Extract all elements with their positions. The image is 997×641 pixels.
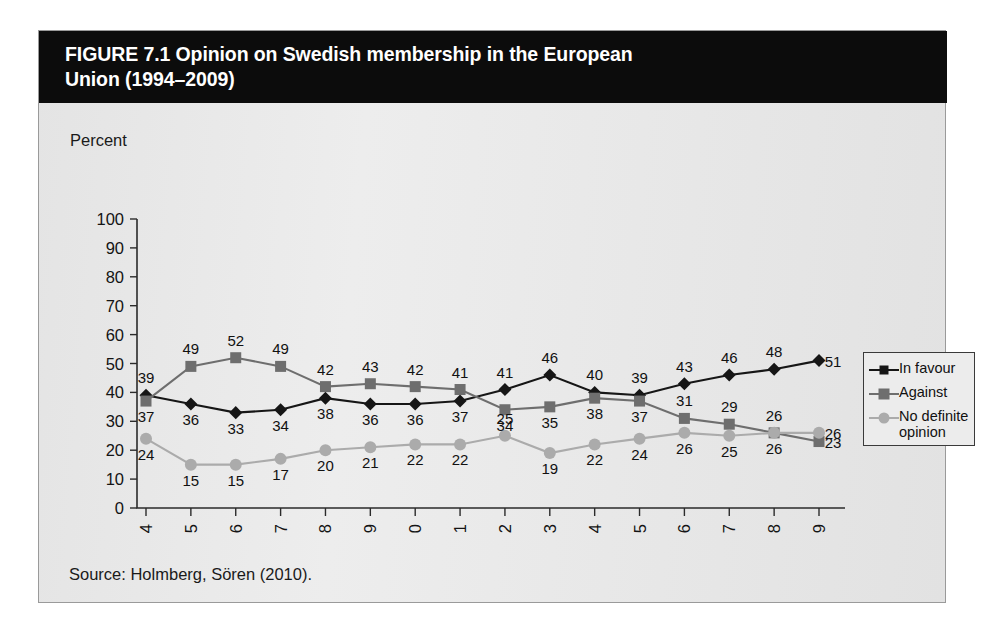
data-label: 37	[138, 408, 155, 425]
x-tick-label: 1997	[272, 524, 290, 533]
data-label: 49	[272, 340, 289, 357]
x-tick-label: 2000	[406, 524, 424, 533]
data-point-marker	[365, 378, 376, 389]
legend-item-in-favour[interactable]: In favour	[864, 361, 974, 378]
data-point-marker	[184, 397, 197, 410]
data-point-marker	[140, 433, 152, 445]
series-line-in-favour	[146, 361, 819, 413]
data-point-marker	[185, 361, 196, 372]
data-labels-group: 3936333438363637414640394346485137495249…	[138, 332, 842, 489]
data-label: 49	[183, 340, 200, 357]
legend-label: No definite opinion	[899, 409, 968, 440]
data-label: 19	[541, 460, 558, 477]
x-tick-label: 2001	[451, 524, 469, 533]
data-point-marker	[812, 354, 825, 367]
figure-title: FIGURE 7.1 Opinion on Swedish membership…	[65, 42, 921, 92]
data-label: 35	[541, 414, 558, 431]
data-point-marker	[319, 392, 332, 405]
data-point-marker	[723, 369, 736, 382]
y-tick-label: 90	[106, 239, 124, 257]
legend-label: Against	[899, 385, 947, 401]
chart-legend: In favour Against No definite opinion	[863, 352, 975, 446]
x-tick-label: 1995	[182, 524, 200, 533]
line-chart-plot: 0102030405060708090100 19941995199619971…	[39, 103, 947, 533]
data-label: 46	[721, 349, 738, 366]
y-tick-label: 60	[106, 326, 124, 344]
data-label: 41	[452, 364, 469, 381]
data-label: 29	[721, 398, 738, 415]
data-point-marker	[410, 381, 421, 392]
data-point-marker	[454, 395, 467, 408]
data-point-marker	[724, 419, 735, 430]
x-tick-label: 1998	[316, 524, 334, 533]
data-point-marker	[634, 433, 646, 445]
data-label: 22	[452, 451, 469, 468]
data-point-marker	[230, 352, 241, 363]
data-point-marker	[678, 377, 691, 390]
data-label: 38	[586, 405, 603, 422]
y-tick-label: 0	[115, 499, 124, 517]
data-label: 25	[497, 410, 514, 427]
data-point-marker	[679, 413, 690, 424]
y-tick-label: 10	[106, 470, 124, 488]
data-label: 43	[362, 358, 379, 375]
x-tick-label: 2005	[631, 524, 649, 533]
y-axis-ticks: 0102030405060708090100	[96, 210, 137, 517]
data-label: 25	[721, 443, 738, 460]
y-tick-label: 30	[106, 412, 124, 430]
y-tick-label: 50	[106, 355, 124, 373]
legend-marker-square-icon	[869, 386, 899, 402]
data-point-marker	[320, 381, 331, 392]
legend-label: In favour	[899, 361, 955, 377]
data-point-marker	[141, 396, 152, 407]
data-label: 36	[362, 411, 379, 428]
x-tick-label: 1999	[361, 524, 379, 533]
data-point-marker	[274, 403, 287, 416]
data-label: 24	[138, 446, 155, 463]
data-label: 42	[407, 361, 424, 378]
legend-marker-circle-icon	[869, 410, 899, 426]
legend-item-no-definite-opinion[interactable]: No definite opinion	[864, 409, 974, 440]
data-label: 36	[407, 411, 424, 428]
data-point-marker	[229, 406, 242, 419]
data-label: 26	[825, 425, 842, 442]
data-point-marker	[813, 427, 825, 439]
data-label: 41	[497, 364, 514, 381]
data-label: 15	[227, 472, 244, 489]
data-point-marker	[768, 427, 780, 439]
legend-item-against[interactable]: Against	[864, 385, 974, 402]
data-point-marker	[544, 447, 556, 459]
data-point-marker	[319, 444, 331, 456]
series-line-against	[146, 358, 819, 442]
figure-title-bar: FIGURE 7.1 Opinion on Swedish membership…	[39, 31, 947, 103]
data-label: 37	[452, 408, 469, 425]
data-label: 39	[138, 369, 155, 386]
data-label: 34	[272, 417, 289, 434]
data-point-marker	[230, 459, 242, 471]
y-tick-label: 100	[96, 210, 124, 228]
x-tick-label: 2002	[496, 524, 514, 533]
data-label: 37	[631, 408, 648, 425]
y-tick-label: 70	[106, 297, 124, 315]
x-tick-label: 2006	[675, 524, 693, 533]
y-tick-label: 20	[106, 441, 124, 459]
x-tick-label: 1996	[227, 524, 245, 533]
data-point-marker	[409, 438, 421, 450]
data-label: 51	[825, 353, 842, 370]
x-axis-ticks: 1994199519961997199819992000200120022003…	[137, 508, 828, 533]
chart-area: Percent 0102030405060708090100 199419951…	[39, 103, 947, 604]
data-point-marker	[678, 427, 690, 439]
data-label: 24	[631, 446, 648, 463]
data-point-marker	[409, 397, 422, 410]
data-label: 39	[631, 369, 648, 386]
y-tick-label: 80	[106, 268, 124, 286]
data-label: 22	[407, 451, 424, 468]
data-label: 38	[317, 405, 334, 422]
data-label: 52	[227, 332, 244, 349]
data-label: 46	[541, 349, 558, 366]
data-label: 36	[183, 411, 200, 428]
data-label: 21	[362, 454, 379, 471]
x-tick-label: 1994	[137, 524, 155, 533]
x-tick-label: 2007	[720, 524, 738, 533]
data-point-marker	[544, 401, 555, 412]
